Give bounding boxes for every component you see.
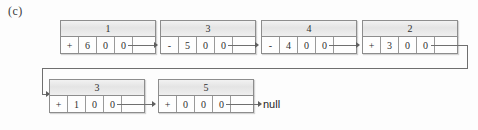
node-cell-sign: +: [159, 96, 177, 112]
node-link-arrow-icon: [255, 42, 259, 48]
node-cell-digit: 6: [79, 37, 97, 53]
null-link-wire: [226, 104, 259, 105]
node-cell-digit: 5: [179, 37, 197, 53]
wraparound-wire-right: [467, 45, 468, 69]
node-link-wire: [117, 104, 153, 105]
node-header: 1: [60, 20, 156, 36]
node-cell-digit: 0: [86, 96, 104, 112]
node-header: 2: [362, 20, 458, 36]
node-cell-digit: 1: [68, 96, 86, 112]
node-header: 4: [261, 20, 357, 36]
node-header: 3: [160, 20, 256, 36]
list-node: 5 + 0 0 0: [158, 79, 254, 113]
node-link-wire: [128, 45, 155, 46]
null-terminator-label: null: [263, 99, 280, 110]
node-cell-digit: 0: [298, 37, 316, 53]
node-cell-digit: 0: [399, 37, 417, 53]
node-link-wire: [329, 45, 357, 46]
list-node: 3 - 5 0 0: [160, 20, 256, 54]
node-cell-digit: 0: [197, 37, 215, 53]
node-link-arrow-icon: [356, 42, 360, 48]
node-header: 5: [158, 79, 254, 95]
node-cell-digit: 0: [195, 96, 213, 112]
node-header: 3: [49, 79, 145, 95]
list-node: 3 + 1 0 0: [49, 79, 145, 113]
node-cell-sign: -: [161, 37, 179, 53]
node-cell-sign: +: [363, 37, 381, 53]
node-cell-sign: +: [50, 96, 68, 112]
list-node: 2 + 3 0 0: [362, 20, 458, 54]
node-cell-digit: 3: [381, 37, 399, 53]
node-cell-digit: 4: [280, 37, 298, 53]
node-link-arrow-icon: [152, 101, 156, 107]
node-cell-digit: 0: [97, 37, 115, 53]
wraparound-wire-middle: [42, 68, 468, 69]
node-cell-sign: +: [61, 37, 79, 53]
wraparound-wire-left: [42, 68, 43, 95]
wraparound-wire-top: [431, 45, 468, 46]
null-link-arrow-icon: [258, 101, 262, 107]
node-cell-sign: -: [262, 37, 280, 53]
figure-label: (c): [8, 4, 23, 19]
list-node: 1 + 6 0 0: [60, 20, 156, 54]
list-node: 4 - 4 0 0: [261, 20, 357, 54]
node-link-arrow-icon: [154, 42, 158, 48]
node-link-wire: [228, 45, 256, 46]
node-cell-digit: 0: [177, 96, 195, 112]
